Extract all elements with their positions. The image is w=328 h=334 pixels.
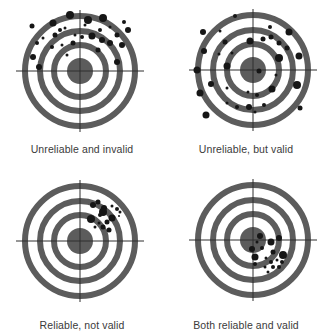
shot-dot <box>50 45 54 49</box>
shot-dot <box>249 246 255 252</box>
shot-dot <box>109 26 112 29</box>
shot-dot <box>256 241 259 244</box>
shot-dot <box>107 228 112 233</box>
caption-reliable-not-valid: Reliable, not valid <box>0 319 164 331</box>
shot-dot <box>226 102 229 105</box>
shot-dot <box>42 37 45 40</box>
caption-unreliable-valid: Unreliable, but valid <box>164 143 328 155</box>
target-reliable-not-valid <box>0 167 164 334</box>
shot-dot <box>275 54 283 62</box>
shot-dot <box>268 239 275 246</box>
shot-dot <box>101 225 106 230</box>
shot-dot <box>269 35 274 40</box>
shot-dot <box>269 260 273 264</box>
shot-dot <box>200 29 206 35</box>
shot-dot <box>262 103 266 107</box>
shot-dot <box>246 104 252 110</box>
shot-dot <box>94 226 97 229</box>
shot-dot <box>35 41 39 45</box>
shot-dot <box>114 59 120 65</box>
shot-dot <box>115 33 120 38</box>
shot-dot <box>231 52 234 55</box>
shot-dot <box>279 251 287 259</box>
shot-dot <box>267 271 270 274</box>
shot-dot <box>271 265 275 269</box>
shot-dot <box>96 48 101 53</box>
shot-dot <box>247 38 254 45</box>
target-unreliable-valid <box>164 0 328 167</box>
shot-dot <box>119 42 125 48</box>
shot-dot <box>99 37 105 43</box>
shot-dot <box>84 24 87 27</box>
shot-dot <box>87 215 95 223</box>
panel-unreliable-invalid: Unreliable and invalid <box>0 0 164 167</box>
shot-dot <box>233 14 237 18</box>
shot-dot <box>99 208 107 216</box>
shot-dot <box>50 20 57 27</box>
panel-reliable-not-valid: Reliable, not valid <box>0 167 164 334</box>
shot-dot <box>118 215 120 217</box>
shot-dot <box>53 33 58 38</box>
shot-dot <box>96 200 101 205</box>
shot-dot <box>298 106 303 111</box>
shot-dot <box>265 257 268 260</box>
shot-dot <box>252 254 259 261</box>
target-unreliable-invalid <box>0 0 164 167</box>
shot-dot <box>253 262 257 266</box>
shot-dot <box>296 53 303 60</box>
shot-dot <box>194 67 201 74</box>
shot-dot <box>254 111 257 114</box>
shot-dot <box>107 40 113 46</box>
shot-dot <box>119 211 122 214</box>
shot-dot <box>111 205 114 208</box>
shot-dot <box>64 27 67 30</box>
shot-dot <box>276 259 279 262</box>
shot-dot <box>105 220 110 225</box>
shot-dot <box>80 35 84 39</box>
shot-dot <box>30 54 36 60</box>
target-reliable-valid <box>164 167 328 334</box>
panel-unreliable-valid: Unreliable, but valid <box>164 0 328 167</box>
shot-dot <box>61 44 64 47</box>
shot-dot <box>58 28 62 32</box>
shot-dot <box>226 87 229 90</box>
shot-dot <box>269 86 276 93</box>
caption-reliable-valid: Both reliable and valid <box>164 319 328 331</box>
shot-dot <box>66 11 74 19</box>
shot-dot <box>109 215 116 222</box>
shot-dot <box>276 235 282 241</box>
shot-dot <box>293 81 301 89</box>
shot-dot <box>257 69 262 74</box>
shot-dot <box>122 20 126 24</box>
shot-dot <box>90 202 96 208</box>
shot-dot <box>224 63 231 70</box>
shot-dot <box>99 14 107 22</box>
shot-dot <box>268 25 272 29</box>
panel-reliable-valid: Both reliable and valid <box>164 167 328 334</box>
shot-dot <box>261 37 266 42</box>
shot-dot <box>219 30 222 33</box>
caption-unreliable-invalid: Unreliable and invalid <box>0 143 164 155</box>
shot-dot <box>115 207 119 211</box>
shot-dot <box>264 266 267 269</box>
shot-dot <box>208 81 214 87</box>
shot-dot <box>280 260 284 264</box>
shot-dot <box>257 233 263 239</box>
shot-dot <box>84 16 92 24</box>
shot-dot <box>125 27 131 33</box>
shot-dot <box>235 105 239 109</box>
shot-dot <box>71 41 76 46</box>
shot-dot <box>66 54 69 57</box>
shot-dot <box>30 24 35 29</box>
shot-dot <box>271 250 276 255</box>
shot-dot <box>218 53 221 56</box>
shot-dot <box>277 265 281 269</box>
shot-dot <box>36 64 42 70</box>
shot-dot <box>98 222 101 225</box>
shot-dot <box>74 34 77 37</box>
shot-dot <box>197 90 204 97</box>
shot-dot <box>285 46 290 51</box>
shot-dot <box>201 48 207 54</box>
shot-dot <box>203 112 210 119</box>
shot-dot <box>260 246 264 250</box>
